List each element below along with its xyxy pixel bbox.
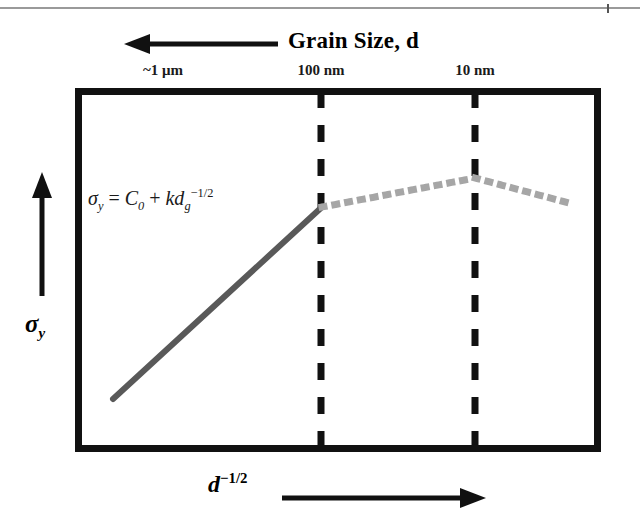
x-axis-right-arrow-icon [280, 486, 490, 510]
y-axis-up-arrow-icon [30, 168, 54, 298]
grain-size-title: Grain Size, d [288, 28, 419, 54]
x-axis-label: d−1/2 [208, 470, 247, 498]
equation-c0: C0 [125, 187, 145, 209]
x-axis-d: d [208, 471, 220, 497]
tick-label-1um: ~1 μm [143, 62, 183, 79]
grain-size-left-arrow-icon [120, 32, 280, 56]
equation-plus: + [149, 187, 160, 209]
top-divider-rule [0, 7, 640, 9]
hall-petch-equation: σy = C0 + kdg−1/2 [88, 186, 213, 214]
y-axis-label: σy [25, 310, 45, 342]
figure-canvas: Grain Size, d ~1 μm 100 nm 10 nm σy = C0… [0, 0, 640, 521]
tick-label-10nm: 10 nm [455, 62, 495, 79]
top-rule-tick-mark [607, 4, 609, 13]
equation-sigma-y: σy [88, 187, 103, 209]
inverse-hall-petch-dotted-line [322, 178, 569, 207]
y-axis-sigma: σ [25, 310, 38, 337]
equation-equals: = [108, 187, 119, 209]
x-axis-exponent: −1/2 [220, 470, 247, 486]
plot-area [75, 88, 601, 452]
grain-size-header: Grain Size, d [120, 28, 540, 60]
equation-kdg: kdg−1/2 [165, 187, 213, 209]
y-axis-subscript: y [38, 325, 45, 341]
plot-curves [82, 95, 594, 445]
tick-label-100nm: 100 nm [297, 62, 344, 79]
hall-petch-solid-line [113, 207, 322, 399]
